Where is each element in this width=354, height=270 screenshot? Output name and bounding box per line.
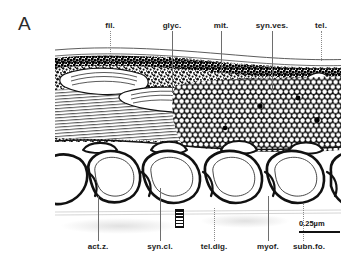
leader-fil bbox=[110, 31, 111, 64]
leader-myof bbox=[268, 196, 269, 241]
label-mit: mit. bbox=[214, 22, 229, 30]
micrograph-drawing bbox=[55, 46, 341, 216]
scale-bar-label: 0.25µm bbox=[299, 219, 325, 228]
leader-syn-ves bbox=[272, 31, 273, 93]
label-act-z: act.z. bbox=[88, 243, 109, 251]
background-smudge bbox=[60, 218, 180, 234]
film-marker-artifact bbox=[175, 209, 184, 228]
label-syn-cl: syn.cl. bbox=[147, 243, 173, 251]
label-fil: fil. bbox=[105, 22, 115, 30]
label-myof: myof. bbox=[257, 243, 279, 251]
scale-bar-line bbox=[299, 231, 340, 233]
leader-act-z bbox=[98, 196, 99, 241]
leader-syn-cl bbox=[160, 188, 161, 241]
label-tel: tel. bbox=[315, 22, 327, 30]
leader-mit bbox=[221, 31, 222, 73]
leader-tel bbox=[321, 31, 322, 61]
panel-letter: A bbox=[18, 14, 31, 33]
label-tel-dig: tel.dig. bbox=[201, 243, 228, 251]
leader-glyc bbox=[172, 31, 173, 93]
leader-tel-dig bbox=[214, 208, 215, 241]
figure-panel: A bbox=[0, 0, 354, 270]
label-subn-fo: subn.fo. bbox=[293, 243, 325, 251]
label-syn-ves: syn.ves. bbox=[256, 22, 288, 30]
label-glyc: glyc. bbox=[163, 22, 182, 30]
